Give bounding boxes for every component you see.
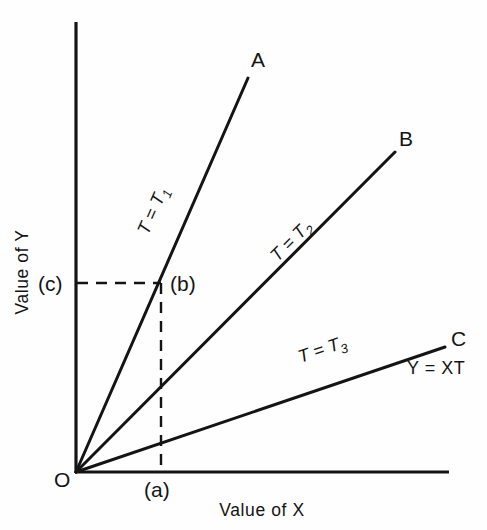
line-diagram-plot: A B C T = T1 T = T2 T = T3 xyxy=(0,0,487,530)
series-inline-labels-group: T = T1 T = T2 T = T3 xyxy=(133,184,350,371)
series-label-t1-group: T = T1 xyxy=(133,184,175,239)
equation-label: Y = XT xyxy=(407,358,465,378)
endpoint-label-c: C xyxy=(451,327,466,350)
series-label-t2-group: T = T2 xyxy=(266,216,319,269)
series-label-t3-group: T = T3 xyxy=(295,332,351,371)
series-label-t3-prefix: T = T xyxy=(295,334,344,367)
endpoint-labels-group: A B C xyxy=(251,48,466,350)
series-rays-group xyxy=(76,78,445,472)
marker-label-b: (b) xyxy=(170,272,196,295)
coordinate-markers-group: (c) (b) (a) xyxy=(38,272,196,501)
figure-canvas: A B C T = T1 T = T2 T = T3 xyxy=(0,0,487,530)
series-label-t3: T = T3 xyxy=(295,332,351,371)
marker-label-c: (c) xyxy=(38,272,63,295)
y-axis-label: Value of Y xyxy=(12,229,32,314)
series-label-t3-sub: 3 xyxy=(338,340,350,357)
axes-group xyxy=(75,22,449,473)
series-label-t1: T = T1 xyxy=(133,184,175,239)
ray-c-line xyxy=(76,347,445,472)
endpoint-label-a: A xyxy=(251,48,265,71)
endpoint-label-b: B xyxy=(399,127,413,150)
origin-label: O xyxy=(54,468,70,491)
x-axis-label: Value of X xyxy=(219,500,304,520)
marker-label-a: (a) xyxy=(144,478,170,501)
y-axis-label-group: Value of Y xyxy=(12,229,32,314)
ray-a-line xyxy=(76,78,248,472)
series-label-t2: T = T2 xyxy=(266,216,319,269)
ray-b-line xyxy=(76,152,395,472)
